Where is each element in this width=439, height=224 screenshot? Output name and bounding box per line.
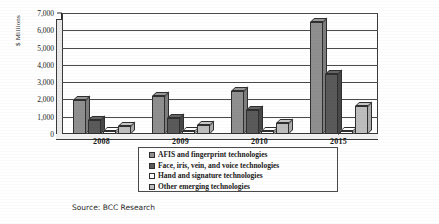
bar-front-face [103, 131, 116, 134]
bar [246, 110, 259, 134]
bar [88, 120, 101, 134]
bar [103, 131, 116, 134]
y-tick-label: 0 [50, 130, 54, 139]
bar-front-face [118, 126, 131, 134]
bar [355, 106, 368, 134]
legend-item: AFIS and fingerprint technologies [149, 150, 337, 161]
bar [340, 131, 353, 134]
legend-item: Face, iris, vein, and voice technologies [149, 161, 337, 172]
x-tick-label: 2015 [299, 137, 378, 146]
chart-figure: $ Millions 01,0002,0003,0004,0005,0006,0… [0, 0, 439, 224]
bar-side-face [338, 69, 342, 134]
bar-front-face [246, 110, 259, 134]
bar [310, 22, 323, 134]
x-tick-label: 2009 [141, 137, 220, 146]
bar [276, 123, 289, 134]
y-tick-label: 4,000 [37, 60, 54, 69]
y-axis-tick-labels: 01,0002,0003,0004,0005,0006,0007,000 [0, 0, 62, 134]
bar [325, 74, 338, 135]
bar [261, 131, 274, 134]
y-tick-label: 1,000 [37, 112, 54, 121]
bar-front-face [276, 123, 289, 134]
y-tick-label: 2,000 [37, 95, 54, 104]
y-tick-label: 5,000 [37, 43, 54, 52]
legend-label: AFIS and fingerprint technologies [158, 150, 267, 161]
bar [231, 91, 244, 134]
bar-front-face [261, 131, 274, 134]
y-tick-label: 6,000 [37, 26, 54, 35]
legend-item: Other emerging technologies [149, 182, 337, 193]
bar-front-face [152, 96, 165, 134]
legend-swatch [149, 184, 155, 190]
legend-swatch [149, 163, 155, 169]
y-tick-label: 7,000 [37, 9, 54, 18]
bar-front-face [231, 91, 244, 134]
legend-label: Hand and signature technologies [158, 171, 263, 182]
bar-front-face [340, 131, 353, 134]
legend-swatch [149, 173, 155, 179]
bar-group [220, 13, 299, 134]
bar [167, 118, 180, 134]
legend-label: Other emerging technologies [158, 182, 250, 193]
bar-group [299, 13, 378, 134]
legend-item: Hand and signature technologies [149, 171, 337, 182]
bar-group [141, 13, 220, 134]
bar-front-face [310, 22, 323, 134]
bar-front-face [167, 118, 180, 134]
bar [152, 96, 165, 134]
bar-front-face [355, 106, 368, 134]
bar-front-face [197, 125, 210, 134]
legend-swatch [149, 152, 155, 158]
bar [197, 125, 210, 134]
bar [118, 126, 131, 134]
bar-front-face [73, 100, 86, 134]
bar [73, 100, 86, 134]
x-tick-label: 2010 [220, 137, 299, 146]
bar-front-face [325, 74, 338, 135]
bar-front-face [182, 131, 195, 134]
x-tick-label: 2008 [62, 137, 141, 146]
legend-label: Face, iris, vein, and voice technologies [158, 161, 279, 172]
bar-front-face [88, 120, 101, 134]
chart-legend: AFIS and fingerprint technologiesFace, i… [138, 147, 338, 192]
source-note: Source: BCC Research [72, 203, 155, 212]
bar [182, 131, 195, 134]
y-tick-label: 3,000 [37, 78, 54, 87]
bar-group [62, 13, 141, 134]
bar-side-face [368, 102, 372, 134]
plot-area [62, 13, 378, 134]
